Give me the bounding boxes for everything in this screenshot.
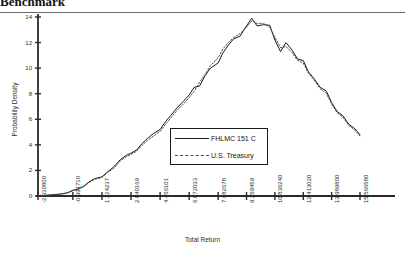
chart-legend: FHLMC 151 C U.S. Treasury xyxy=(170,128,268,165)
legend-label-1: U.S. Treasury xyxy=(211,152,254,159)
x-tick-label: 1.224237 xyxy=(104,178,110,203)
y-tick-label: 8 xyxy=(12,91,32,97)
chart-page: Benchmark Probability Density Total Retu… xyxy=(0,0,405,253)
x-tick-label: 4.456101 xyxy=(163,178,169,203)
x-tick-label: 15.566580 xyxy=(363,175,369,203)
legend-item-0: FHLMC 151 C xyxy=(175,132,256,144)
x-tick-label: 7.682678 xyxy=(221,178,227,203)
x-axis-title: Total Return xyxy=(0,236,405,243)
y-tick-label: 6 xyxy=(12,116,32,122)
x-tick-label: -0.391710 xyxy=(75,176,81,203)
legend-key-dotted-icon xyxy=(175,151,209,159)
x-tick-label: 10.836240 xyxy=(277,175,283,203)
x-tick-label: 13.989800 xyxy=(334,175,340,203)
x-tick-label: -2.330800 xyxy=(41,176,47,203)
legend-label-0: FHLMC 151 C xyxy=(211,135,256,142)
y-tick-label: 0 xyxy=(12,193,32,199)
legend-item-1: U.S. Treasury xyxy=(175,149,254,161)
legend-key-solid-icon xyxy=(175,134,209,142)
x-tick-label: 9.259459 xyxy=(249,178,255,203)
series-line xyxy=(38,18,360,196)
x-tick-label: 2.840169 xyxy=(134,178,140,203)
x-tick-label: 12.413020 xyxy=(306,175,312,203)
series-line xyxy=(38,21,360,196)
y-tick-label: 10 xyxy=(12,65,32,71)
probability-density-chart: Probability Density Total Return 0246810… xyxy=(0,14,405,253)
header-divider xyxy=(0,12,405,13)
y-tick-label: 12 xyxy=(12,40,32,46)
y-tick-label: 2 xyxy=(12,167,32,173)
y-tick-label: 14 xyxy=(12,14,32,20)
page-title: Benchmark xyxy=(0,0,65,10)
x-tick-label: 6.072033 xyxy=(192,178,198,203)
y-tick-label: 4 xyxy=(12,142,32,148)
